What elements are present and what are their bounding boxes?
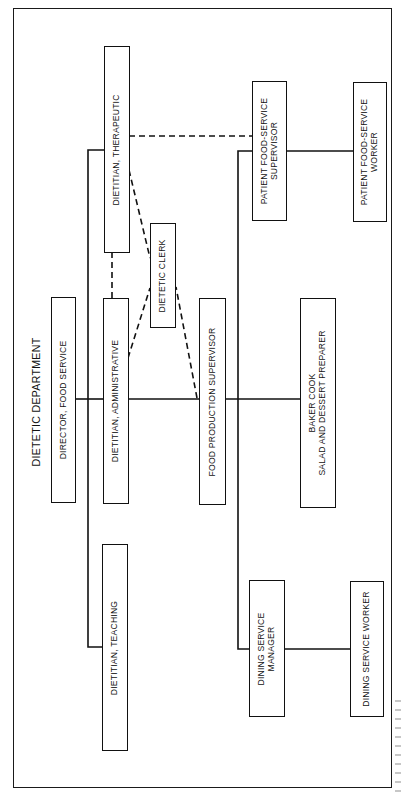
- node-patient-food-service-worker: PATIENT FOOD-SERVICE WORKER: [353, 82, 387, 222]
- cropped-caption-fragment: [395, 700, 401, 792]
- node-dining-service-worker: DINING SERVICE WORKER: [350, 581, 384, 717]
- org-chart: DIETETIC DEPARTMENT DIRECTOR, FOOD SERVI…: [0, 0, 403, 798]
- node-dietitian-therapeutic: DIETITIAN, THERAPEUTIC: [104, 46, 130, 253]
- node-label: DIRECTOR, FOOD SERVICE: [59, 341, 69, 460]
- node-label: DINING SERVICE WORKER: [362, 591, 372, 706]
- node-director-food-service: DIRECTOR, FOOD SERVICE: [51, 297, 76, 503]
- node-label: DIETITIAN, TEACHING: [110, 600, 120, 694]
- node-patient-food-service-supervisor: PATIENT FOOD-SERVICE SUPERVISOR: [252, 81, 287, 221]
- node-label: DIETETIC CLERK: [158, 239, 168, 312]
- node-label: DIETITIAN, ADMINISTRATIVE: [111, 340, 121, 462]
- node-dining-service-manager: DINING SERVICE MANAGER: [249, 580, 285, 717]
- node-label: DINING SERVICE MANAGER: [257, 612, 276, 685]
- node-dietetic-clerk: DIETETIC CLERK: [150, 223, 176, 328]
- edge-therapeutic-clerk-dashed: [129, 170, 150, 258]
- node-label: PATIENT FOOD-SERVICE SUPERVISOR: [260, 98, 279, 205]
- edge-admin-clerk-dashed: [128, 288, 150, 358]
- node-dietitian-administrative: DIETITIAN, ADMINISTRATIVE: [103, 298, 129, 504]
- diagram-title: DIETETIC DEPARTMENT: [30, 338, 42, 467]
- node-label: PATIENT FOOD-SERVICE WORKER: [360, 99, 379, 206]
- node-food-production-supervisor: FOOD PRODUCTION SUPERVISOR: [199, 298, 226, 505]
- node-dietitian-teaching: DIETITIAN, TEACHING: [102, 544, 128, 751]
- node-label: FOOD PRODUCTION SUPERVISOR: [208, 327, 218, 476]
- node-label: BAKER COOK SALAD AND DESSERT PREPARER: [308, 330, 327, 475]
- node-label: DIETITIAN, THERAPEUTIC: [112, 94, 122, 205]
- edge-supervisor-bus: [238, 151, 252, 649]
- edge-foodprod-clerk-dashed: [176, 287, 197, 398]
- node-baker-cook: BAKER COOK SALAD AND DESSERT PREPARER: [300, 298, 336, 508]
